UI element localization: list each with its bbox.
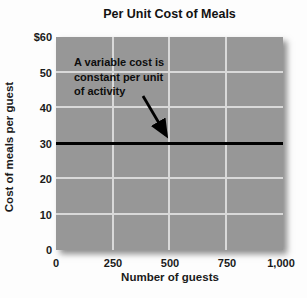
annotation-line: constant per unit [74, 70, 164, 85]
y-tick-label: 40 [12, 101, 52, 115]
x-tick-label: 750 [205, 256, 249, 270]
x-tick-label: 0 [34, 256, 78, 270]
annotation-line: of activity [74, 84, 164, 99]
x-tick-label: 250 [91, 256, 135, 270]
annotation-text: A variable cost is constant per unit of … [74, 55, 164, 99]
y-tick-label: 10 [12, 208, 52, 222]
chart-figure: Per Unit Cost of Meals Cost of meals per… [0, 0, 307, 298]
x-axis-title: Number of guests [70, 271, 270, 283]
x-tick-label: 500 [148, 256, 192, 270]
y-tick-label: 30 [12, 137, 52, 151]
annotation-line: A variable cost is [74, 55, 164, 70]
plot-area: A variable cost is constant per unit of … [56, 37, 283, 250]
y-tick-label: $60 [12, 30, 52, 44]
y-tick-label: 20 [12, 172, 52, 186]
chart-title: Per Unit Cost of Meals [56, 7, 283, 21]
y-tick-label: 0 [12, 243, 52, 257]
x-tick-label: 1,000 [259, 256, 303, 270]
y-tick-label: 50 [12, 66, 52, 80]
